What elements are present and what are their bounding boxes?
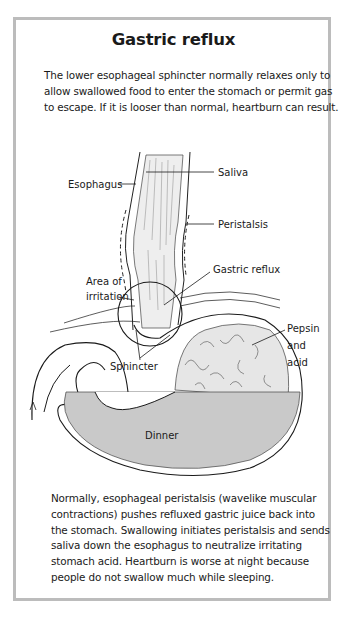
dinner-food-region [64,392,300,469]
esophagus-lumen [133,155,183,328]
intro-line: allow swallowed food to enter the stomac… [44,84,306,100]
label-gastric-reflux: Gastric reflux [213,264,280,275]
diaphragm-line [180,299,280,308]
diaphragm-line [64,306,135,323]
label-area-of-irritation-1: Area of [86,276,122,287]
diaphragm-line [50,321,140,332]
label-and: and [287,340,306,351]
label-peristalsis: Peristalsis [218,219,268,230]
label-area-of-irritation-2: irritation [86,291,129,302]
explanation-paragraph: Normally, esophageal peristalsis (waveli… [51,491,313,586]
diaphragm-line [180,292,280,300]
intro-paragraph: The lower esophageal sphincter normally … [44,68,306,115]
figure-title: Gastric reflux [0,30,347,49]
explanation-line: Normally, esophageal peristalsis (waveli… [51,491,313,507]
intro-line: to escape. If it is looser than normal, … [44,100,306,116]
explanation-line: the stomach. Swallowing initiates perist… [51,523,313,539]
label-pepsin: Pepsin [287,323,320,334]
label-saliva: Saliva [218,167,248,178]
explanation-line: contractions) pushes refluxed gastric ju… [51,507,313,523]
label-dinner: Dinner [145,430,179,441]
explanation-line: people do not swallow much while sleepin… [51,570,313,586]
pepsin-acid-region [175,324,289,398]
label-sphincter: Sphincter [110,361,159,372]
label-esophagus: Esophagus [68,179,122,190]
explanation-line: saliva down the esophagus to neutralize … [51,538,313,554]
label-acid: acid [287,357,308,368]
intro-line: The lower esophageal sphincter normally … [44,68,306,84]
explanation-line: stomach acid. Heartburn is worse at nigh… [51,554,313,570]
